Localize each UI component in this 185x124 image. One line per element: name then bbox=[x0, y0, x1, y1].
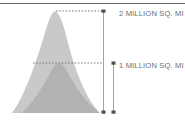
measure-cap-upper-top bbox=[102, 10, 106, 13]
label-2-million-sq-mi: 2 MILLION SQ. MI bbox=[119, 9, 184, 18]
infographic-area-chart: 2 MILLION SQ. MI 1 MILLION SQ. MI bbox=[0, 0, 185, 124]
measure-cap-upper-bottom bbox=[102, 111, 106, 114]
measure-cap-lower-bottom bbox=[112, 111, 116, 114]
label-1-million-sq-mi: 1 MILLION SQ. MI bbox=[119, 61, 184, 70]
measure-cap-lower-top bbox=[112, 62, 116, 65]
